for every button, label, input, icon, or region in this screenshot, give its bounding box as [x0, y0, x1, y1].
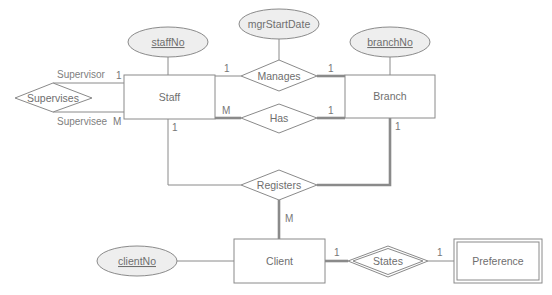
attribute-clientno: clientNo — [97, 246, 177, 276]
relationship-label: Has — [270, 112, 289, 124]
entity-label: Branch — [373, 90, 406, 102]
entity-preference-weak: Preference — [454, 239, 542, 283]
connector-branch-registers — [317, 118, 390, 185]
relationship-label: Manages — [257, 70, 300, 82]
entity-label: Client — [266, 255, 293, 267]
relationship-label: Supervises — [27, 92, 79, 104]
attribute-label: staffNo — [151, 36, 184, 48]
er-diagram: staffNo mgrStartDate branchNo clientNo S… — [0, 0, 552, 295]
cardinality-supervisee: M — [113, 116, 121, 127]
entity-branch: Branch — [345, 75, 435, 118]
cardinality-supervisor: 1 — [116, 70, 122, 81]
relationship-states-identifying: States — [348, 246, 428, 277]
entity-staff: Staff — [124, 75, 215, 119]
attribute-label: clientNo — [118, 255, 156, 267]
connector-staff-registers — [168, 119, 241, 185]
relationship-label: Registers — [257, 179, 301, 191]
relationship-registers: Registers — [241, 170, 317, 200]
cardinality-registers-branch: 1 — [395, 121, 401, 132]
role-supervisee: Supervisee — [57, 116, 107, 127]
attribute-branchno: branchNo — [350, 27, 430, 57]
role-supervisor: Supervisor — [57, 69, 105, 80]
attribute-label: mgrStartDate — [248, 18, 311, 30]
cardinality-has-branch: 1 — [328, 105, 334, 116]
relationship-manages: Manages — [241, 60, 317, 91]
cardinality-manages-staff: 1 — [224, 63, 230, 74]
cardinality-registers-client: M — [285, 213, 293, 224]
entity-client: Client — [234, 239, 325, 283]
relationship-label: States — [373, 255, 403, 267]
entity-label: Staff — [159, 91, 180, 103]
cardinality-registers-staff: 1 — [172, 122, 178, 133]
attribute-label: branchNo — [367, 36, 413, 48]
cardinality-has-staff: M — [222, 105, 230, 116]
relationship-has: Has — [241, 104, 317, 133]
attribute-mgrstartdate: mgrStartDate — [239, 9, 319, 39]
attribute-staffno: staffNo — [128, 27, 208, 57]
entity-label: Preference — [472, 255, 524, 267]
cardinality-states-client: 1 — [334, 247, 340, 258]
relationship-supervises: Supervises — [15, 83, 92, 112]
cardinality-manages-branch: 1 — [328, 63, 334, 74]
cardinality-states-preference: 1 — [437, 247, 443, 258]
